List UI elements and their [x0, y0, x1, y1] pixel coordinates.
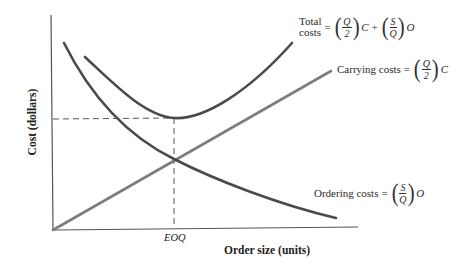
y-axis-label: Cost (dollars) — [26, 89, 38, 156]
fraction: Q 2 — [342, 16, 351, 39]
x-axis-label: Order size (units) — [224, 244, 310, 256]
total-cost-curve — [85, 43, 292, 118]
fraction: S Q — [389, 16, 396, 39]
carrying-costs-formula: = ( Q 2 ) C — [401, 56, 448, 82]
y-axis — [51, 15, 53, 230]
total-costs-formula: = ( Q 2 ) C + ( S Q ) O — [321, 14, 414, 40]
eoq-horizontal-guide — [53, 118, 174, 119]
carrying-costs-label: Carrying costs = ( Q 2 ) C — [337, 56, 448, 82]
ordering-costs-label: Ordering costs = ( S Q ) O — [314, 180, 424, 206]
total-costs-text: Total costs — [299, 16, 321, 38]
eoq-tick-label: EOQ — [164, 232, 186, 243]
ordering-cost-curve — [64, 43, 336, 218]
fraction: Q 2 — [422, 58, 431, 81]
ordering-costs-formula: = ( S Q ) O — [378, 180, 424, 206]
total-costs-label: Total costs = ( Q 2 ) C + ( S Q ) O — [299, 14, 414, 40]
x-axis — [53, 227, 358, 230]
fraction: S Q — [399, 182, 406, 205]
